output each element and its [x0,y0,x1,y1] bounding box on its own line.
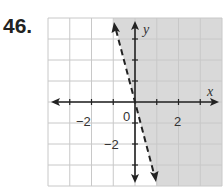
coordinate-graph: y x 0 −2 2 −2 [0,0,223,188]
x-axis-label: x [206,84,214,99]
origin-label: 0 [123,109,130,124]
x-tick-label-neg2: −2 [76,114,91,129]
y-axis-label: y [141,22,150,37]
y-tick-label-neg2: −2 [104,137,119,152]
x-tick-label-2: 2 [174,114,181,129]
